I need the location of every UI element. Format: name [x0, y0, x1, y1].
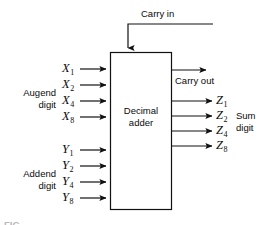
sum-group-label: Sum digit	[236, 110, 271, 133]
signal-subscript: 4	[69, 181, 73, 190]
figure-canvas: Carry in Carry out Decimal adder Augend …	[0, 0, 271, 225]
signal-label-z2: Z2	[216, 109, 227, 122]
signal-name: Y	[62, 142, 69, 156]
signal-subscript: 1	[69, 149, 73, 158]
signal-label-z8: Z8	[216, 139, 227, 152]
carry-in-wire	[128, 24, 213, 48]
decimal-adder-block	[111, 53, 172, 210]
signal-subscript: 8	[223, 145, 227, 154]
signal-label-z1: Z1	[216, 94, 227, 107]
sum-group-label-line2: digit	[236, 122, 271, 134]
signal-subscript: 1	[70, 68, 74, 77]
signal-subscript: 1	[223, 100, 227, 109]
signal-subscript: 2	[69, 165, 73, 174]
signal-label-y4: Y4	[62, 175, 73, 188]
sum-group-label-line1: Sum	[236, 110, 271, 122]
addend-group-label-line2: digit	[0, 180, 56, 192]
signal-label-x1: X1	[62, 62, 74, 75]
signal-name: Z	[216, 93, 223, 107]
signal-label-x8: X8	[62, 110, 74, 123]
signal-name: X	[62, 93, 70, 107]
carry-in-label: Carry in	[141, 9, 174, 19]
signal-name: Z	[216, 138, 223, 152]
signal-name: X	[62, 109, 70, 123]
signal-name: Y	[62, 158, 69, 172]
signal-subscript: 8	[70, 116, 74, 125]
decimal-adder-label: Decimal adder	[110, 105, 172, 129]
augend-group-label-line2: digit	[0, 99, 56, 111]
addend-group-label: Addend digit	[0, 168, 56, 191]
signal-label-y2: Y2	[62, 159, 73, 172]
signal-subscript: 2	[70, 84, 74, 93]
signal-name: Z	[216, 108, 223, 122]
signal-name: X	[62, 77, 70, 91]
signal-name: Y	[62, 174, 69, 188]
signal-subscript: 4	[70, 100, 74, 109]
signal-subscript: 2	[223, 115, 227, 124]
decimal-adder-label-line1: Decimal	[110, 105, 172, 117]
signal-subscript: 8	[69, 197, 73, 206]
signal-label-z4: Z4	[216, 124, 227, 137]
decimal-adder-label-line2: adder	[110, 117, 172, 129]
augend-group-label-line1: Augend	[0, 87, 56, 99]
signal-name: X	[62, 61, 70, 75]
figure-caption: FIG.	[4, 219, 22, 225]
carry-out-label: Carry out	[175, 76, 214, 86]
signal-label-x2: X2	[62, 78, 74, 91]
addend-group-label-line1: Addend	[0, 168, 56, 180]
signal-label-y1: Y1	[62, 143, 73, 156]
signal-label-y8: Y8	[62, 191, 73, 204]
signal-name: Z	[216, 123, 223, 137]
signal-subscript: 4	[223, 130, 227, 139]
augend-group-label: Augend digit	[0, 87, 56, 110]
signal-label-x4: X4	[62, 94, 74, 107]
signal-name: Y	[62, 190, 69, 204]
